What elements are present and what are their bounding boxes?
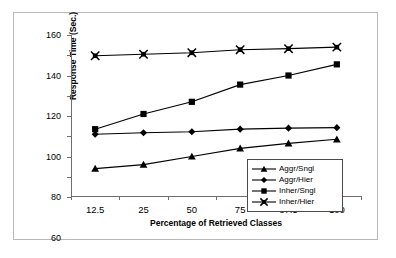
x-axis-title: Percentage of Retrieved Classes (71, 218, 361, 228)
x-tick-label: 25 (138, 205, 149, 215)
x-tick-mark (361, 196, 362, 200)
y-tick-label: 120 (46, 112, 61, 121)
legend-label: Inher/Hier (279, 198, 314, 206)
x-tick-label: 12.5 (86, 205, 105, 215)
y-tick-label: 140 (46, 71, 61, 80)
series-inher-sngl (92, 61, 340, 132)
diamond-icon (251, 175, 277, 185)
chart-legend: Aggr/SnglAggr/HierInher/SnglInher/Hier (247, 159, 343, 212)
star-x-icon (251, 197, 277, 207)
y-tick-label: 160 (46, 31, 61, 40)
legend-item[interactable]: Inher/Sngl (251, 186, 338, 196)
y-tick-label: 100 (46, 152, 61, 161)
legend-item[interactable]: Aggr/Sngl (251, 164, 338, 174)
triangle-icon (251, 164, 277, 174)
legend-label: Aggr/Hier (279, 176, 313, 184)
chart-figure: Response Time (Sec.) 0204060801001201401… (13, 12, 378, 240)
series-aggr-hier (92, 124, 341, 138)
x-tick-label: 50 (187, 205, 198, 215)
legend-item[interactable]: Aggr/Hier (251, 175, 338, 185)
series-inher-hier (91, 43, 341, 60)
legend-label: Aggr/Sngl (279, 165, 314, 173)
legend-item[interactable]: Inher/Hier (251, 197, 338, 207)
y-tick-label: 80 (51, 193, 61, 202)
legend-label: Inher/Sngl (279, 187, 315, 195)
square-icon (251, 186, 277, 196)
x-tick-label: 75 (235, 205, 246, 215)
y-tick-label: 60 (51, 233, 61, 242)
